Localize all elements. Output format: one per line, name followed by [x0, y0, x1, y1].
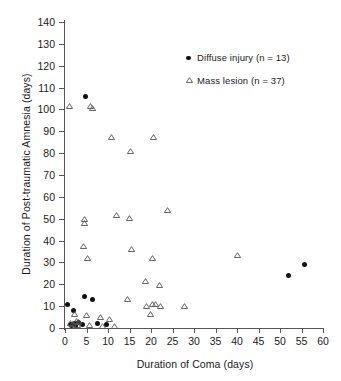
data-point-mass-lesion: [234, 252, 241, 258]
data-point-mass-lesion: [149, 255, 156, 261]
filled-circle-marker-icon: [186, 56, 197, 61]
data-point-mass-lesion: [84, 255, 91, 261]
open-triangle-marker-icon: [186, 77, 197, 83]
data-point-mass-lesion: [150, 134, 157, 140]
data-point-mass-lesion: [128, 246, 135, 252]
chart-legend: Diffuse injury (n = 13) Mass lesion (n =…: [186, 53, 290, 98]
x-axis-tick: [194, 328, 195, 333]
scatter-chart-figure: Duration of Post-traumatic Amnesia (days…: [0, 0, 341, 381]
x-axis-tick: [259, 328, 260, 333]
x-axis-title: Duration of Coma (days): [60, 358, 330, 370]
y-axis-tick-label: 40: [15, 236, 55, 247]
x-axis-tick: [130, 328, 131, 333]
x-axis-tick: [108, 328, 109, 333]
data-point-mass-lesion: [126, 215, 133, 221]
y-axis-tick-label: 60: [15, 192, 55, 203]
data-point-mass-lesion: [89, 105, 96, 111]
data-point-mass-lesion: [147, 311, 154, 317]
y-axis-tick-label: 50: [15, 214, 55, 225]
y-axis-tick-label: 0: [15, 323, 55, 334]
data-point-mass-lesion: [66, 103, 73, 109]
data-point-mass-lesion: [108, 134, 115, 140]
x-axis-tick-label: 60: [308, 336, 338, 347]
data-point-mass-lesion: [111, 323, 118, 329]
data-point-mass-lesion: [81, 220, 88, 226]
data-point-mass-lesion: [106, 316, 113, 322]
y-axis-tick-label: 30: [15, 257, 55, 268]
y-axis-tick-label: 140: [15, 17, 55, 28]
legend-item-mass-lesion: Mass lesion (n = 37): [186, 76, 290, 86]
y-axis-tick-label: 90: [15, 126, 55, 137]
y-axis-tick-label: 20: [15, 279, 55, 290]
y-axis-tick-label: 130: [15, 39, 55, 50]
data-point-mass-lesion: [156, 282, 163, 288]
data-point-diffuse-injury: [82, 294, 87, 299]
data-point-diffuse-injury: [286, 273, 291, 278]
data-point-mass-lesion: [97, 314, 104, 320]
data-point-mass-lesion: [99, 323, 106, 329]
x-axis-tick: [65, 328, 66, 333]
x-axis-tick: [151, 328, 152, 333]
data-point-mass-lesion: [127, 148, 134, 154]
data-point-mass-lesion: [71, 311, 78, 317]
y-axis-tick-label: 10: [15, 301, 55, 312]
x-axis-tick: [173, 328, 174, 333]
y-axis-tick-label: 110: [15, 83, 55, 94]
legend-item-diffuse-injury: Diffuse injury (n = 13): [186, 53, 290, 63]
data-point-diffuse-injury: [83, 94, 88, 99]
legend-item-label: Mass lesion (n = 37): [197, 76, 285, 86]
data-point-mass-lesion: [86, 322, 93, 328]
y-axis-tick-label: 80: [15, 148, 55, 159]
x-axis-tick: [302, 328, 303, 333]
data-point-mass-lesion: [164, 207, 171, 213]
x-axis-tick: [280, 328, 281, 333]
x-axis-tick: [323, 328, 324, 333]
data-point-mass-lesion: [113, 212, 120, 218]
data-point-diffuse-injury: [90, 297, 95, 302]
x-axis-tick: [237, 328, 238, 333]
y-axis-tick-label: 120: [15, 61, 55, 72]
data-point-mass-lesion: [124, 296, 131, 302]
y-axis-tick-label: 100: [15, 104, 55, 115]
data-point-mass-lesion: [74, 322, 81, 328]
data-point-mass-lesion: [157, 303, 164, 309]
data-point-mass-lesion: [142, 278, 149, 284]
data-point-mass-lesion: [181, 303, 188, 309]
x-axis-tick: [87, 328, 88, 333]
y-axis-tick-label: 70: [15, 170, 55, 181]
x-axis-tick: [216, 328, 217, 333]
legend-item-label: Diffuse injury (n = 13): [197, 53, 290, 63]
data-point-mass-lesion: [83, 312, 90, 318]
data-point-mass-lesion: [80, 243, 87, 249]
